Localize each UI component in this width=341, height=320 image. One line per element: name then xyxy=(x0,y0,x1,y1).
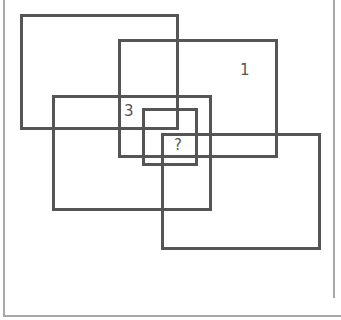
diagram-canvas: 1 3 ? xyxy=(0,0,341,320)
frame-bottom-border xyxy=(3,315,341,317)
region-label-1: 1 xyxy=(240,63,250,78)
region-label-3: 3 xyxy=(124,104,134,119)
rectangle-e xyxy=(161,133,321,250)
region-label-question: ? xyxy=(174,138,182,153)
frame-right-border xyxy=(333,0,335,298)
frame-left-border xyxy=(3,0,5,317)
